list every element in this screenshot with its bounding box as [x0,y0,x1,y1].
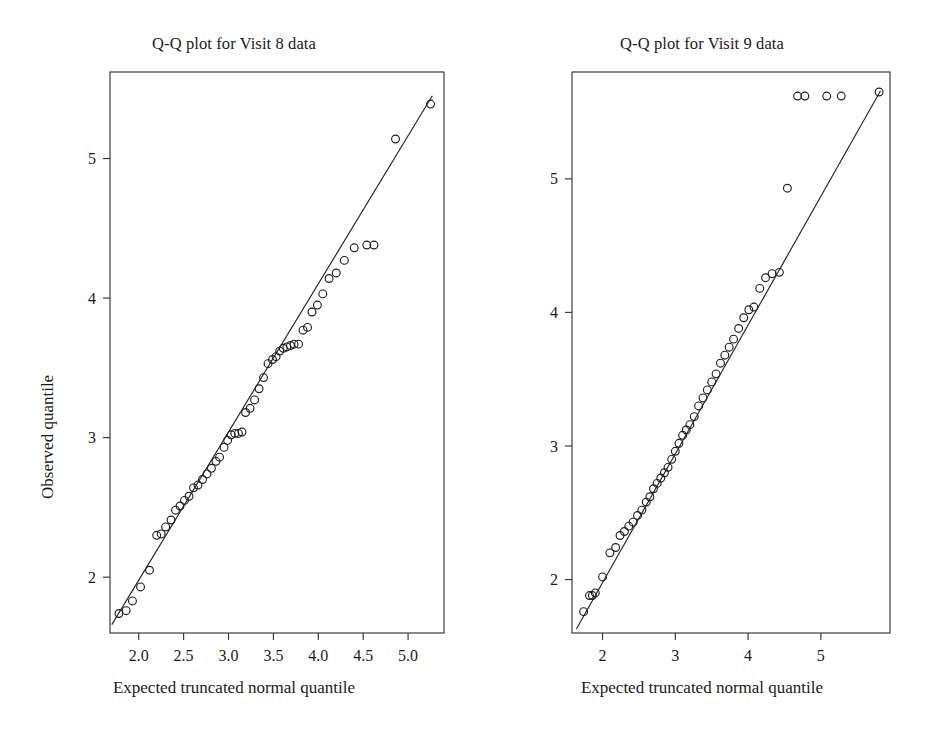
data-point [304,323,312,331]
data-point [325,275,333,283]
data-point [224,437,232,445]
data-point [657,474,665,482]
x-tick-label: 2 [599,647,607,664]
y-tick-label: 4 [88,290,96,307]
qq-panel-visit-8: Q-Q plot for Visit 8 data 2.02.53.03.54.… [0,0,468,732]
data-point [837,92,845,100]
data-point [157,530,165,538]
data-point [783,184,791,192]
data-point [730,335,738,343]
data-point [717,359,725,367]
data-point [801,92,809,100]
y-axis-label-left: Observed quantile [38,375,58,499]
x-tick-label: 3 [671,647,679,664]
data-point [823,92,831,100]
data-point [712,370,720,378]
data-point [251,396,259,404]
x-axis-label-left: Expected truncated normal quantile [0,678,468,698]
y-tick-label: 4 [550,304,558,321]
data-point [153,531,161,539]
y-tick-label: 3 [88,429,96,446]
data-point [708,378,716,386]
x-tick-label: 4.5 [353,647,373,664]
data-point [146,566,154,574]
plot-area-right: 23452345 [468,0,936,732]
data-point [167,516,175,524]
data-point [295,340,303,348]
qq-panel-visit-9: Q-Q plot for Visit 9 data 23452345 Expec… [468,0,936,732]
data-point [725,343,733,351]
data-point [122,607,130,615]
x-tick-label: 2.5 [174,647,194,664]
x-tick-label: 5 [817,647,825,664]
x-tick-label: 4 [744,647,752,664]
data-point [695,402,703,410]
data-point [340,256,348,264]
x-tick-label: 2.0 [129,647,149,664]
data-point [242,409,250,417]
data-point [703,386,711,394]
data-point [699,394,707,402]
data-point [740,314,748,322]
data-point [768,270,776,278]
data-point [137,583,145,591]
reference-line [112,96,433,625]
data-point [392,135,400,143]
x-tick-label: 5.0 [398,647,418,664]
data-point [162,523,170,531]
data-point [246,404,254,412]
data-point [612,544,620,552]
data-point [875,88,883,96]
x-tick-label: 4.0 [308,647,328,664]
y-tick-label: 5 [550,170,558,187]
x-tick-label: 3.0 [219,647,239,664]
y-tick-label: 5 [88,150,96,167]
y-tick-label: 2 [88,569,96,586]
data-point [721,351,729,359]
data-point [255,385,263,393]
data-point [735,325,743,333]
data-point [332,269,340,277]
data-point [794,92,802,100]
plot-area-left: 2.02.53.03.54.04.55.02345 [0,0,468,732]
data-point [129,597,137,605]
data-point [308,308,316,316]
data-point [299,326,307,334]
data-point [208,464,216,472]
x-axis-label-right: Expected truncated normal quantile [468,678,936,698]
y-tick-label: 3 [550,438,558,455]
reference-line [576,91,880,629]
x-tick-label: 3.5 [263,647,283,664]
qq-plot-figure: Q-Q plot for Visit 8 data 2.02.53.03.54.… [0,0,936,732]
data-point [350,244,358,252]
data-point [319,290,327,298]
data-point [314,301,322,309]
y-tick-label: 2 [550,571,558,588]
data-point [756,284,764,292]
data-point [172,506,180,514]
